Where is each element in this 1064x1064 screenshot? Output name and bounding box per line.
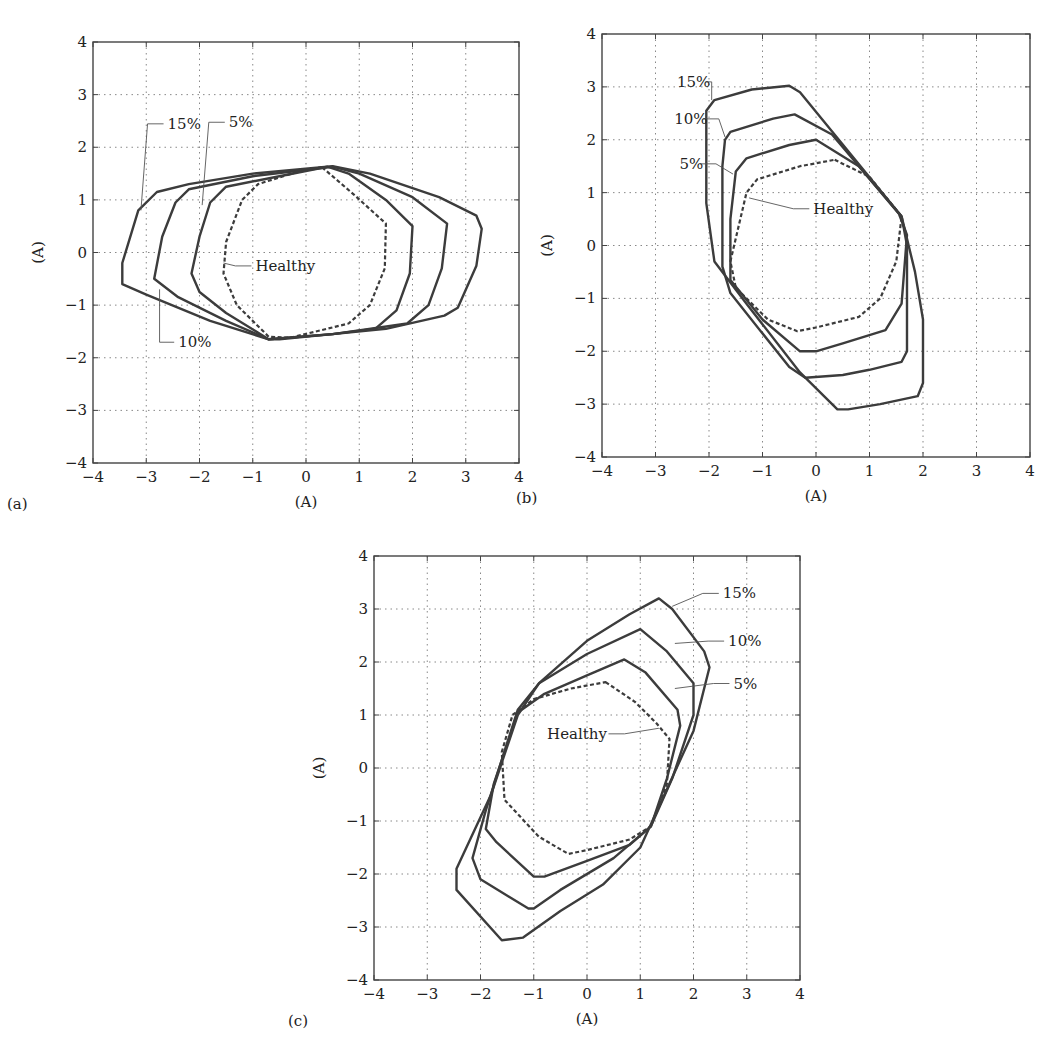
x-tick-label: 1	[354, 468, 364, 486]
x-tick-label: 0	[582, 985, 592, 1003]
panel-label: (c)	[288, 1012, 308, 1030]
annotation-leader-line	[675, 684, 730, 689]
y-axis-label: (A)	[538, 234, 556, 257]
panel-c: −4−3−2−101234−4−3−2−101234(A)(A)(c)15%10…	[288, 547, 805, 1030]
y-tick-label: −3	[346, 918, 368, 936]
y-tick-label: 3	[77, 86, 87, 104]
x-tick-label: −3	[135, 468, 157, 486]
y-tick-label: −4	[574, 448, 596, 466]
x-tick-label: 2	[918, 462, 928, 480]
x-tick-label: 4	[1025, 462, 1035, 480]
x-tick-label: 3	[972, 462, 982, 480]
y-tick-label: 2	[358, 653, 368, 671]
x-tick-label: −1	[242, 468, 264, 486]
y-tick-label: 4	[77, 33, 87, 51]
x-axis-label: (A)	[576, 1010, 599, 1028]
x-tick-label: 2	[689, 985, 699, 1003]
y-tick-label: 4	[586, 25, 596, 43]
x-axis-label: (A)	[805, 487, 828, 505]
annotation-leader-line	[700, 164, 733, 174]
annotation-leader-line	[749, 198, 809, 209]
x-tick-label: 2	[408, 468, 418, 486]
x-tick-label: 3	[742, 985, 752, 1003]
x-tick-label: 1	[865, 462, 875, 480]
annotation-label: 5%	[680, 155, 704, 173]
x-tick-label: 3	[461, 468, 471, 486]
y-tick-label: 3	[586, 78, 596, 96]
annotation-label: 15%	[677, 73, 710, 91]
y-tick-label: 0	[77, 244, 87, 262]
y-tick-label: 2	[77, 138, 87, 156]
y-axis-label: (A)	[29, 241, 47, 264]
x-tick-label: −3	[416, 985, 438, 1003]
x-tick-label: −1	[523, 985, 545, 1003]
x-tick-label: 0	[811, 462, 821, 480]
y-tick-label: −4	[346, 971, 368, 989]
annotation-label: Healthy	[547, 725, 607, 743]
axes-frame	[374, 556, 800, 980]
panel-b: −4−3−2−101234−4−3−2−101234(A)(A)(b)15%10…	[516, 25, 1035, 507]
annotation-label: 10%	[674, 110, 707, 128]
y-tick-label: −1	[574, 289, 596, 307]
x-tick-label: 1	[635, 985, 645, 1003]
x-tick-label: −2	[698, 462, 720, 480]
x-tick-label: −3	[644, 462, 666, 480]
y-tick-label: −2	[346, 865, 368, 883]
x-tick-label: −2	[469, 985, 491, 1003]
y-tick-label: −1	[65, 296, 87, 314]
y-tick-label: 0	[358, 759, 368, 777]
y-tick-label: −1	[346, 812, 368, 830]
x-tick-label: 0	[301, 468, 311, 486]
series-10pct-curve	[722, 114, 907, 377]
annotation-leader-line	[160, 289, 175, 342]
y-tick-label: −2	[574, 342, 596, 360]
annotation-leader-line	[608, 728, 658, 734]
annotation-label: 10%	[178, 333, 211, 351]
panel-label: (b)	[516, 489, 537, 507]
annotation-label: Healthy	[255, 257, 315, 275]
annotation-label: 10%	[728, 632, 761, 650]
annotation-label: 5%	[733, 675, 757, 693]
x-tick-label: −1	[751, 462, 773, 480]
y-tick-label: 4	[358, 547, 368, 565]
x-tick-label: 4	[514, 468, 524, 486]
annotation-leader-line	[223, 263, 251, 266]
y-tick-label: 2	[586, 131, 596, 149]
y-tick-label: 1	[586, 184, 596, 202]
y-tick-label: 1	[77, 191, 87, 209]
series-10pct-curve	[473, 629, 694, 908]
annotation-leader-line	[675, 641, 724, 643]
y-tick-label: 3	[358, 600, 368, 618]
annotation-leader-line	[672, 593, 719, 606]
y-tick-label: −3	[574, 395, 596, 413]
x-tick-label: 4	[795, 985, 805, 1003]
x-axis-label: (A)	[295, 493, 318, 511]
y-tick-label: −2	[65, 349, 87, 367]
y-tick-label: −4	[65, 454, 87, 472]
annotation-label: 5%	[229, 113, 253, 131]
series-15pct-curve	[706, 86, 923, 410]
figure: −4−3−2−101234−4−3−2−101234(A)(A)(a)15%5%…	[0, 0, 1064, 1064]
x-tick-label: −2	[188, 468, 210, 486]
y-tick-label: 1	[358, 706, 368, 724]
y-axis-label: (A)	[310, 757, 328, 780]
y-tick-label: 0	[586, 237, 596, 255]
annotation-label: 15%	[168, 115, 201, 133]
panel-a: −4−3−2−101234−4−3−2−101234(A)(A)(a)15%5%…	[7, 33, 524, 513]
annotation-label: 15%	[723, 584, 756, 602]
y-tick-label: −3	[65, 401, 87, 419]
panel-label: (a)	[7, 495, 28, 513]
annotation-label: Healthy	[813, 200, 873, 218]
